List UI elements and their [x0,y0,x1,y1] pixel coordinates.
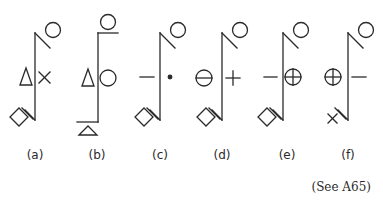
circle-icon [101,15,116,30]
circle-plus-icon [285,69,301,85]
label-a: (a) [27,148,44,162]
circle-icon [171,23,186,38]
label-e: (e) [279,148,296,162]
symbol-e [258,23,309,127]
bottom-diagonal-2 [338,110,348,120]
circle-icon [294,23,309,38]
theta-circle-icon [196,70,212,86]
label-f: (f) [341,148,355,162]
plus-icon [226,71,240,85]
circle-icon [359,23,374,38]
triangle-icon [79,126,97,135]
symbol-b [77,15,118,136]
label-d: (d) [214,148,231,162]
circle-icon [46,23,61,38]
notation-figure [0,0,383,208]
circle-icon [100,70,116,86]
cross-icon [328,114,337,123]
triangle-icon [82,69,94,86]
label-b: (b) [89,148,106,162]
symbol-c [135,23,186,127]
symbol-a [10,23,61,127]
triangle-icon [20,68,32,85]
label-c: (c) [152,148,168,162]
symbol-f [325,23,374,124]
reference-note: (See A65) [311,180,371,194]
circle-plus-icon [325,69,341,85]
cross-icon [39,72,50,83]
symbol-d [196,23,248,127]
dot-icon [168,75,172,79]
circle-icon [233,23,248,38]
